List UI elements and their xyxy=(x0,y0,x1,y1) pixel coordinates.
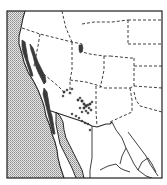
map-canvas xyxy=(0,0,167,185)
range-map: Species distribution range map, western … xyxy=(0,0,167,185)
